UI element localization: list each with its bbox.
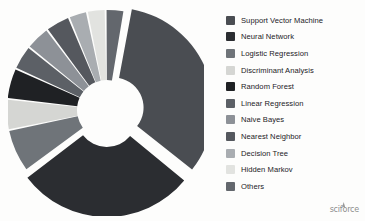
sciforce-logo-text: sciforce — [330, 205, 359, 214]
legend-color-swatch — [226, 16, 235, 25]
legend-item-label: Others — [241, 182, 264, 191]
legend-item[interactable]: Nearest Neighbor — [226, 128, 362, 145]
legend-item[interactable]: Linear Regression — [226, 95, 362, 112]
legend-item-label: Hidden Markov — [241, 165, 293, 174]
legend-color-swatch — [226, 32, 235, 41]
legend-item[interactable]: Random Forest — [226, 78, 362, 95]
legend-item-label: Nearest Neighbor — [241, 132, 301, 141]
donut-svg — [8, 4, 204, 216]
legend-item-label: Neural Network — [241, 32, 294, 41]
legend-color-swatch — [226, 99, 235, 108]
legend-color-swatch — [226, 165, 235, 174]
donut-chart — [8, 4, 204, 216]
chart-legend: Support Vector MachineNeural NetworkLogi… — [226, 12, 362, 195]
pie-chart-figure: Support Vector MachineNeural NetworkLogi… — [0, 0, 365, 221]
legend-item[interactable]: Discriminant Analysis — [226, 62, 362, 79]
legend-color-swatch — [226, 182, 235, 191]
legend-item-label: Logistic Regression — [241, 49, 308, 58]
legend-color-swatch — [226, 149, 235, 158]
legend-item[interactable]: Others — [226, 178, 362, 195]
legend-color-swatch — [226, 82, 235, 91]
legend-color-swatch — [226, 115, 235, 124]
legend-item-label: Linear Regression — [241, 99, 303, 108]
sciforce-logo: sciforce — [330, 205, 359, 214]
legend-item[interactable]: Neural Network — [226, 29, 362, 46]
legend-item-label: Naive Bayes — [241, 115, 284, 124]
legend-item[interactable]: Naive Bayes — [226, 112, 362, 129]
legend-item[interactable]: Logistic Regression — [226, 45, 362, 62]
legend-item[interactable]: Hidden Markov — [226, 161, 362, 178]
legend-item[interactable]: Support Vector Machine — [226, 12, 362, 29]
legend-item-label: Decision Tree — [241, 149, 288, 158]
legend-item-label: Random Forest — [241, 82, 294, 91]
legend-color-swatch — [226, 132, 235, 141]
legend-color-swatch — [226, 49, 235, 58]
legend-item-label: Support Vector Machine — [241, 16, 323, 25]
legend-color-swatch — [226, 66, 235, 75]
legend-item-label: Discriminant Analysis — [241, 66, 314, 75]
legend-item[interactable]: Decision Tree — [226, 145, 362, 162]
